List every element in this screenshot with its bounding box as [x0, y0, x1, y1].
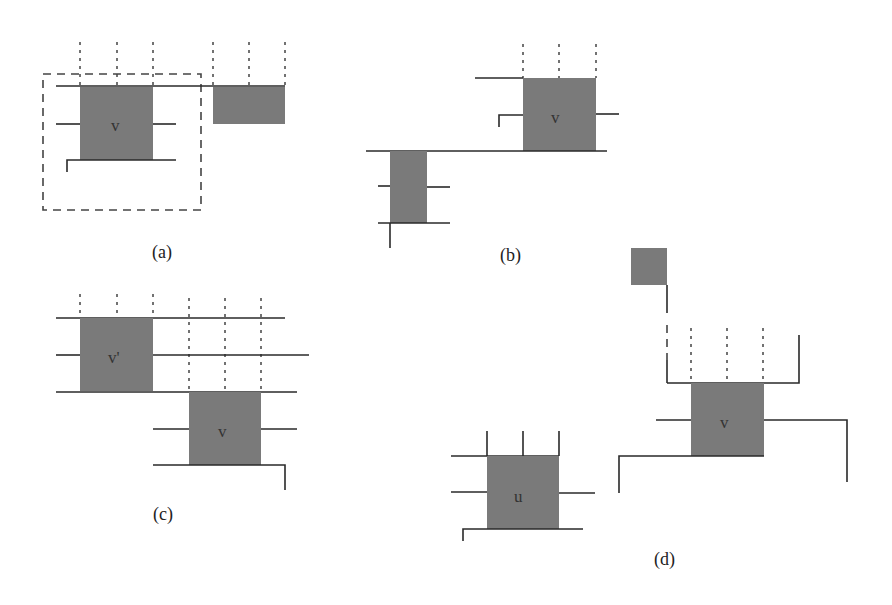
- node-label-v: v: [218, 422, 227, 441]
- node-left: [390, 151, 427, 223]
- node-right: [213, 87, 285, 124]
- node-top: [631, 248, 667, 285]
- panel-a: v (a): [43, 42, 285, 263]
- node-label-v: v: [720, 413, 729, 432]
- panel-d: v u (d): [451, 248, 847, 570]
- node-label-v: v: [111, 116, 120, 135]
- panel-b: v (b): [366, 44, 619, 266]
- node-u: [487, 456, 559, 529]
- node-label-v: v: [551, 108, 560, 127]
- panel-c: v' v (c): [56, 294, 309, 525]
- node-label-u: u: [514, 487, 523, 506]
- caption-a: (a): [152, 242, 172, 263]
- node-v: [523, 78, 596, 151]
- caption-b: (b): [500, 245, 521, 266]
- caption-c: (c): [153, 504, 173, 525]
- orthogonal-drawing-figure: v (a) v (b) v': [0, 0, 892, 605]
- caption-d: (d): [654, 549, 675, 570]
- node-label-v-prime: v': [108, 348, 120, 367]
